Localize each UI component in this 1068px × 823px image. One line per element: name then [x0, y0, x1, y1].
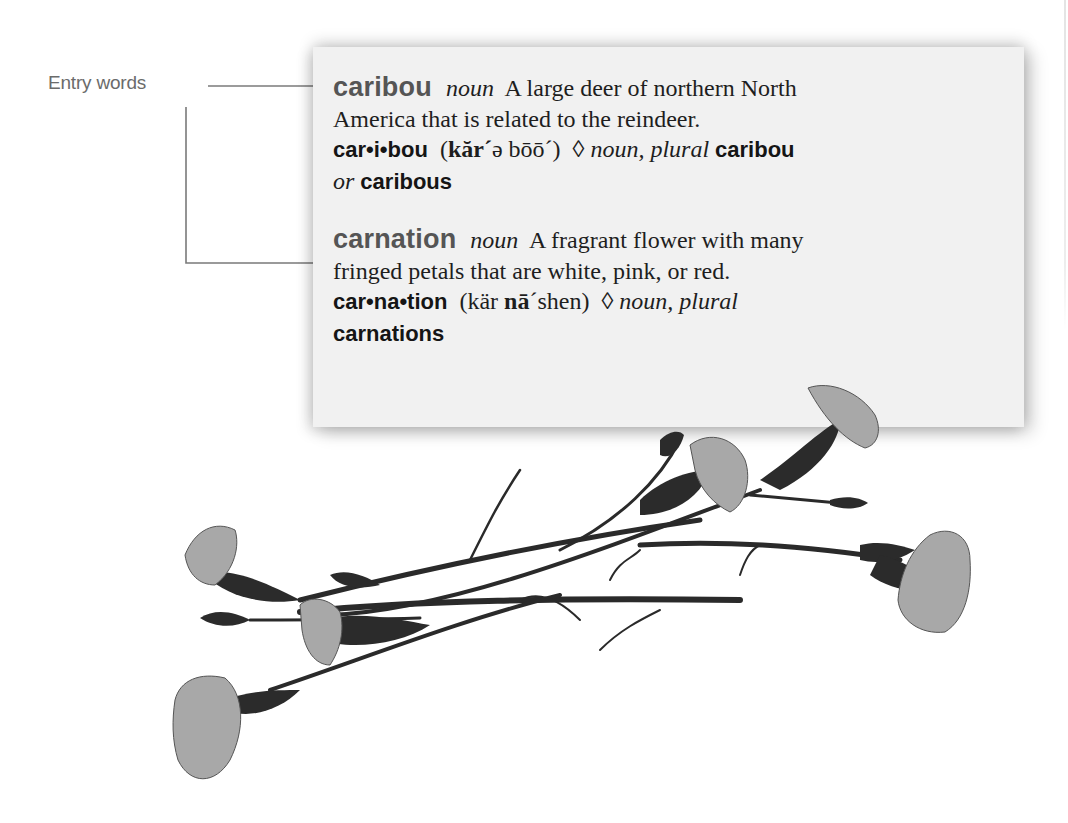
- carnation-flowers-illustration: [160, 380, 1000, 820]
- definition-text-cont: America that is related to the reindeer.: [333, 106, 700, 132]
- syllabification: car•na•tion: [333, 289, 447, 314]
- pronunciation-open: (: [440, 136, 448, 162]
- definition-text-cont: fringed petals that are white, pink, or …: [333, 258, 730, 284]
- plural-form-alt: caribous: [360, 169, 452, 194]
- entry-pronunciation-line: car•na•tion (kär nā´shen) ◊ noun, plural…: [333, 286, 1013, 349]
- pronunciation-stress: kăr´: [448, 136, 492, 162]
- pronunciation-rest: ´shen): [529, 288, 589, 314]
- pronunciation-rest: ə bōō´): [492, 136, 561, 162]
- entry-headword: carnation: [333, 224, 456, 254]
- diamond-icon: ◊: [573, 136, 585, 162]
- entry-headword: caribou: [333, 72, 432, 102]
- entry-caribou: caribounoun A large deer of northern Nor…: [333, 72, 1013, 197]
- or-label: or: [333, 168, 354, 194]
- entry-definition: caribounoun A large deer of northern Nor…: [333, 72, 1013, 134]
- arrow-to-carnation: [186, 107, 333, 263]
- pronunciation-stress: nā: [504, 288, 529, 314]
- definition-text: A large deer of northern North: [505, 75, 797, 101]
- entry-carnation: carnationnoun A fragrant flower with man…: [333, 224, 1013, 349]
- plural-form: carnations: [333, 321, 444, 346]
- plural-form: caribou: [715, 137, 794, 162]
- definition-text: A fragrant flower with many: [529, 227, 804, 253]
- entry-pronunciation-line: car•i•bou (kăr´ə bōō´) ◊ noun, plural ca…: [333, 134, 1013, 197]
- entry-definition: carnationnoun A fragrant flower with man…: [333, 224, 1013, 286]
- part-of-speech: noun: [470, 227, 518, 253]
- syllabification: car•i•bou: [333, 137, 428, 162]
- inflection-label: noun, plural: [619, 288, 738, 314]
- diamond-icon: ◊: [601, 288, 613, 314]
- dictionary-entry-card: caribounoun A large deer of northern Nor…: [313, 47, 1024, 427]
- part-of-speech: noun: [446, 75, 494, 101]
- pronunciation-open: (kär: [459, 288, 498, 314]
- inflection-label: noun, plural: [590, 136, 709, 162]
